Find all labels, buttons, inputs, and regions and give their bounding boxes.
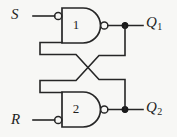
label-output-q2-subscript: 2 [157, 106, 162, 117]
gate-1-body [62, 8, 101, 43]
label-output-q1-subscript: 1 [157, 21, 162, 32]
label-reset-input: R [11, 112, 20, 127]
gate-2-output-bubble-icon [101, 106, 108, 113]
gate-1-output-bubble-icon [101, 22, 108, 29]
label-output-q2: Q2 [146, 100, 162, 117]
label-output-q1: Q1 [146, 15, 162, 32]
label-set-input: S [11, 7, 19, 22]
label-output-q1-letter: Q [146, 14, 157, 30]
label-output-q2-letter: Q [146, 99, 157, 115]
gate-2-input-bubble-icon [55, 116, 62, 123]
gate-1-number: 1 [73, 17, 80, 32]
logic-circuit-figure: 1 2 S R Q1 Q2 [0, 0, 177, 137]
gate-1-input-bubble-icon [55, 12, 62, 19]
wire-feedback-q2-to-gate1 [40, 43, 125, 110]
gate-2-number: 2 [73, 101, 80, 116]
wire-feedback-q1-to-gate2 [40, 26, 125, 93]
gate-2-body [62, 92, 101, 127]
